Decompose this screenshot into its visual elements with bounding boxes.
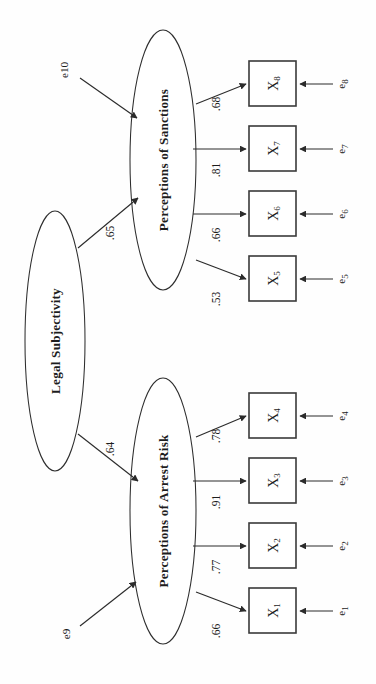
loading-value: .78 [210, 429, 223, 444]
latent-label: Perceptions of Arrest Risk [156, 434, 171, 588]
observed-label-subscript: 6 [272, 206, 282, 211]
structural-p-arrest: .64 [78, 434, 138, 481]
observed-label-base: X [265, 276, 280, 286]
error-label: e4 [335, 411, 350, 421]
loading-value: .91 [210, 495, 223, 510]
observed-label-subscript: 5 [272, 271, 282, 276]
factor-loadings-group: .68.81.66.53.78.91.77.66 [193, 84, 246, 638]
structural-paths-group: .65.64 [78, 198, 138, 481]
disturbance-arrow [80, 582, 136, 626]
error-e7: e7 [300, 144, 350, 154]
error-e2: e2 [300, 541, 350, 550]
loading-l6: .66 [193, 214, 246, 242]
error-label: e8 [335, 79, 350, 89]
latent-legal-subjectivity: Legal Subjectivity [25, 211, 85, 471]
observed-x2: X2 [249, 523, 296, 568]
disturbance-label: e10 [58, 62, 70, 79]
error-label-subscript: 4 [340, 411, 350, 416]
loading-l8: .68 [196, 84, 246, 111]
disturbance-e9: e9 [60, 582, 136, 639]
observed-x4: X4 [249, 393, 296, 438]
disturbance-label: e9 [60, 628, 72, 639]
error-label: e5 [335, 274, 350, 284]
loading-value: .66 [210, 624, 223, 639]
loading-l2: .77 [193, 546, 246, 574]
error-e4: e4 [300, 411, 350, 421]
observed-x5: X5 [249, 256, 296, 301]
error-label: e2 [335, 541, 350, 550]
error-label: e6 [335, 209, 350, 219]
observed-label-subscript: 3 [272, 473, 282, 478]
loading-l1: .66 [196, 592, 246, 638]
diagram-canvas: Legal SubjectivityPerceptions of Sanctio… [0, 0, 376, 684]
loading-value: .53 [210, 292, 223, 307]
error-label-subscript: 8 [340, 79, 350, 84]
latent-label: Perceptions of Sanctions [156, 89, 171, 231]
structural-value: .64 [104, 442, 117, 457]
latent-perceptions-of-arrest-risk: Perceptions of Arrest Risk [130, 378, 196, 644]
loading-value: .81 [210, 163, 223, 178]
error-label: e1 [335, 606, 350, 615]
error-label-subscript: 6 [340, 209, 350, 214]
observed-x1: X1 [249, 588, 296, 633]
structural-arrow [78, 434, 138, 481]
observed-label-base: X [265, 413, 280, 423]
error-e5: e5 [300, 274, 350, 284]
observed-label-subscript: 8 [272, 76, 282, 81]
error-e1: e1 [300, 606, 350, 615]
error-e8: e8 [300, 79, 350, 89]
latent-perceptions-of-sanctions: Perceptions of Sanctions [130, 30, 196, 290]
observed-x6: X6 [249, 191, 296, 236]
observed-label-base: X [265, 146, 280, 156]
loading-l4: .78 [196, 416, 246, 443]
error-terms-group: e8e7e6e5e4e3e2e1 [300, 79, 350, 616]
loading-arrow [196, 592, 246, 611]
observed-x3: X3 [249, 458, 296, 503]
disturbance-arrow [80, 78, 137, 118]
observed-label-base: X [265, 211, 280, 221]
observed-label-base: X [265, 608, 280, 618]
error-label-subscript: 1 [340, 606, 350, 611]
latent-variables-group: Legal SubjectivityPerceptions of Sanctio… [25, 30, 196, 644]
observed-label-subscript: 2 [272, 538, 282, 543]
error-e6: e6 [300, 209, 350, 219]
observed-label-subscript: 4 [272, 408, 282, 413]
error-label: e7 [335, 144, 350, 154]
error-label-subscript: 3 [340, 476, 350, 481]
observed-label-base: X [265, 543, 280, 553]
error-label: e3 [335, 476, 350, 486]
structural-p-sanctions: .65 [78, 198, 138, 248]
observed-label-subscript: 1 [272, 603, 282, 608]
disturbance-e10: e10 [58, 62, 137, 118]
error-label-subscript: 5 [340, 274, 350, 279]
observed-x7: X7 [249, 126, 296, 171]
error-label-subscript: 7 [340, 144, 350, 149]
sem-path-diagram: Legal SubjectivityPerceptions of Sanctio… [0, 0, 376, 684]
loading-value: .66 [210, 228, 223, 243]
error-e3: e3 [300, 476, 350, 486]
latent-label: Legal Subjectivity [48, 288, 63, 394]
observed-label-subscript: 7 [272, 141, 282, 146]
loading-arrow [196, 260, 246, 279]
loading-value: .77 [210, 560, 223, 575]
observed-variables-group: X8X7X6X5X4X3X2X1 [249, 61, 296, 633]
loading-l7: .81 [193, 149, 246, 177]
loading-value: .68 [210, 97, 223, 112]
loading-l3: .91 [193, 481, 246, 509]
observed-label-base: X [265, 478, 280, 488]
structural-value: .65 [104, 226, 117, 241]
error-label-subscript: 2 [340, 541, 350, 546]
loading-l5: .53 [196, 260, 246, 306]
observed-x8: X8 [249, 61, 296, 106]
observed-label-base: X [265, 81, 280, 91]
